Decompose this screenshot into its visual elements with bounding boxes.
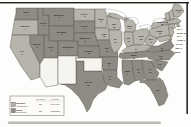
page-edge-shadow — [8, 122, 161, 124]
legend-swatch-mckinley — [12, 102, 16, 106]
label-rhode-island: R.I. 4 — [177, 35, 182, 37]
label-delaware: DEL. 3 — [176, 47, 183, 49]
legend-swatch-bryan — [12, 109, 16, 113]
state-arizona-territory — [40, 58, 58, 87]
legend-party-republican: (Republican) — [16, 105, 28, 107]
great-lake-4 — [139, 25, 152, 29]
legend-column-electoral: Electoral — [36, 98, 45, 100]
label-new-hampshire: N.H. 4 — [177, 28, 183, 30]
label-vermont: VT. 4 — [177, 25, 182, 27]
label-massachusetts: MASS. 15 — [177, 32, 187, 34]
scanned-election-map: WASH.4OREGON4CAL.9NEVADA3IDAHO3MONTANA3W… — [0, 0, 191, 127]
state-new-mexico-territory — [58, 56, 76, 84]
legend-party-democrat: (Democrat) — [16, 111, 26, 113]
label-new-jersey: N.J. 10 — [176, 43, 183, 45]
state-florida — [140, 78, 168, 107]
label-connecticut: CONN. 6 — [177, 39, 186, 41]
us-map-1896: WASH.4OREGON4CAL.9NEVADA3IDAHO3MONTANA3W… — [0, 0, 191, 127]
frame-top-line — [0, 2, 189, 3]
frame-right-line — [186, 2, 188, 114]
label-maryland: MD. 8 — [175, 51, 181, 53]
legend-column-popular: Popular — [51, 98, 59, 100]
legend: Electoral Popular McKinley (Republican) … — [10, 96, 64, 116]
